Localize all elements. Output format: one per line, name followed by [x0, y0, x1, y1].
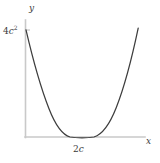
x-tick-label-2c: 2c [73, 145, 84, 154]
y-axis-label: y [29, 4, 34, 13]
y-tick-exponent: 2 [14, 24, 18, 31]
parabola-figure: y x 4c2 2c [0, 0, 160, 163]
y-tick-label-4c-squared: 4c2 [3, 27, 18, 36]
plot-area [0, 0, 160, 163]
parabola-curve [26, 28, 138, 138]
x-axis-label: x [146, 137, 151, 146]
x-tick-variable: c [79, 144, 84, 154]
